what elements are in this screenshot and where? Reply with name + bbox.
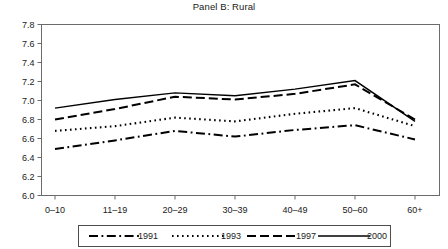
y-tick-label: 6.6 xyxy=(22,134,35,144)
x-tick-label: 40–49 xyxy=(282,205,307,215)
plot-frame xyxy=(42,25,440,196)
series-line-2000 xyxy=(55,81,415,122)
x-tick-label: 11–19 xyxy=(103,205,127,215)
series-line-1991 xyxy=(55,125,415,149)
chart-legend: 1991199319972000 xyxy=(79,226,391,247)
y-tick-label: 7.8 xyxy=(22,20,35,30)
y-tick-label: 6.0 xyxy=(22,191,35,201)
chart-plot-area: 6.06.26.46.66.87.07.27.47.67.8 0–1011–19… xyxy=(0,0,448,249)
x-tick-label: 30–39 xyxy=(222,205,247,215)
x-axis-ticks: 0–1011–1920–2930–3940–4950–6060+ xyxy=(45,196,423,215)
legend-label-1997: 1997 xyxy=(296,231,316,241)
x-tick-label: 20–29 xyxy=(162,205,187,215)
legend-label-1993: 1993 xyxy=(221,231,241,241)
y-tick-label: 7.6 xyxy=(22,39,35,49)
data-series-group xyxy=(55,81,415,149)
y-tick-label: 7.0 xyxy=(22,96,35,106)
legend-label-1991: 1991 xyxy=(138,231,158,241)
legend-label-2000: 2000 xyxy=(367,231,387,241)
y-tick-label: 6.2 xyxy=(22,172,35,182)
series-line-1997 xyxy=(55,84,415,119)
y-tick-label: 7.4 xyxy=(22,58,35,68)
x-tick-label: 0–10 xyxy=(45,205,65,215)
y-tick-label: 6.8 xyxy=(22,115,35,125)
x-tick-label: 50–60 xyxy=(342,205,367,215)
x-tick-label: 60+ xyxy=(407,205,422,215)
y-axis-ticks: 6.06.26.46.66.87.07.27.47.67.8 xyxy=(22,20,42,201)
y-tick-label: 6.4 xyxy=(22,153,35,163)
chart-figure: Panel B: Rural 6.06.26.46.66.87.07.27.47… xyxy=(0,0,448,249)
y-tick-label: 7.2 xyxy=(22,77,35,87)
